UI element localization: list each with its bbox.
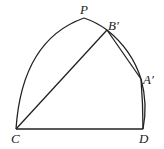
geometry-diagram: P B′ A′ C D [0, 0, 164, 149]
arc-c-p [16, 18, 84, 129]
chord-b-a [107, 30, 141, 79]
arc-p-b [84, 18, 107, 30]
label-a-prime: A′ [142, 72, 154, 87]
label-b-prime: B′ [108, 18, 119, 33]
label-p: P [79, 2, 88, 17]
label-c: C [11, 131, 20, 146]
label-d: D [138, 131, 149, 146]
segment-c-b [16, 30, 107, 129]
